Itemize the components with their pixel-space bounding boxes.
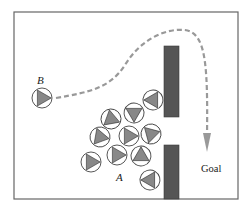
robot-b-label: B xyxy=(37,74,44,86)
robots xyxy=(32,86,167,193)
robot-a-member xyxy=(136,166,163,193)
robot-a-member xyxy=(139,122,163,146)
diagram-canvas: B A Goal xyxy=(0,0,250,209)
robot-a-member xyxy=(127,142,154,169)
group-a-label: A xyxy=(115,171,123,183)
robot-b xyxy=(32,88,52,108)
robot-a-member xyxy=(119,126,139,146)
wall-upper xyxy=(164,46,179,117)
wall-lower xyxy=(164,145,179,199)
robot-a-member xyxy=(81,152,101,172)
robot-a-member xyxy=(107,145,127,165)
goal-label: Goal xyxy=(201,163,221,174)
walls xyxy=(164,46,179,199)
goal-arrowhead-icon xyxy=(203,133,211,152)
